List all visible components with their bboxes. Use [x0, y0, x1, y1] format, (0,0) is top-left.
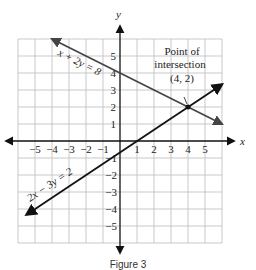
svg-text:3: 3	[111, 84, 117, 96]
svg-text:−4: −4	[105, 203, 117, 215]
svg-text:intersection: intersection	[154, 58, 206, 70]
intersection-annotation: Point of intersection (4, 2)	[154, 45, 206, 85]
y-axis-label: y	[115, 8, 121, 20]
svg-text:4: 4	[185, 143, 191, 155]
intersection-point	[186, 105, 191, 110]
svg-text:2: 2	[151, 143, 157, 155]
svg-text:2: 2	[111, 101, 117, 113]
svg-text:1: 1	[111, 118, 117, 130]
svg-text:5: 5	[202, 143, 208, 155]
x-axis-label: x	[239, 135, 245, 147]
line2-label: 2x − 3y = 2	[24, 164, 74, 203]
svg-text:−4: −4	[46, 143, 58, 155]
svg-text:−3: −3	[105, 186, 117, 198]
svg-text:(4, 2): (4, 2)	[170, 72, 194, 85]
svg-text:−2: −2	[80, 143, 92, 155]
svg-text:3: 3	[168, 143, 174, 155]
svg-text:Point of: Point of	[164, 45, 199, 57]
svg-text:−5: −5	[29, 143, 41, 155]
annotation-pointer	[184, 97, 187, 104]
svg-text:−3: −3	[63, 143, 75, 155]
svg-text:1: 1	[134, 143, 140, 155]
figure-caption: Figure 3	[110, 259, 147, 270]
svg-text:5: 5	[111, 50, 117, 62]
svg-text:−2: −2	[105, 169, 117, 181]
svg-text:−5: −5	[105, 220, 117, 232]
graph: x y −5 −4 −3 −2 −1 1 2 3 4 5 1 2 3 4 5 −…	[0, 0, 256, 270]
